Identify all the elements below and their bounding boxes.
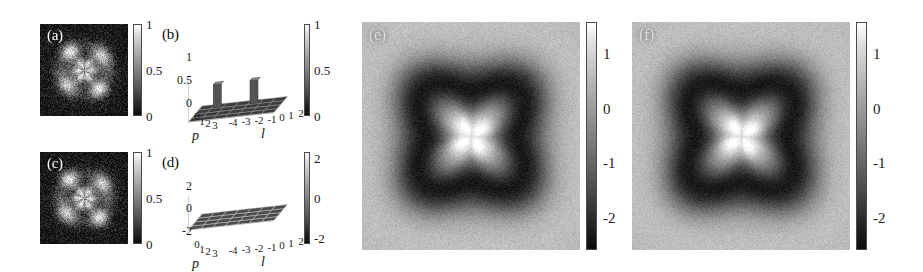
colorbar-tick: 0.5 [314,64,330,77]
panel-b: (b) 1 0.5 0 0 1 2 3 p -4 -3 -2 -1 0 1 2 … [160,18,310,143]
colorbar-gradient [856,22,867,250]
colorbar-gradient [133,24,142,116]
panel-d-ztick: -2 [182,224,192,239]
colorbar-tick: 1 [146,146,153,159]
panel-d-ptick: 1 [199,243,205,255]
colorbar-ticks: 2 0 -2 [310,152,350,244]
panel-b-ptick: 2 [205,117,211,129]
colorbar-gradient [586,22,597,250]
panel-d-ltick: -2 [254,242,263,254]
colorbar-tick: 0 [314,192,321,205]
colorbar-tick: 0 [603,101,611,116]
colorbar-tick: -2 [603,211,616,226]
panel-b-ztick: 0 [186,96,192,111]
panel-d-ptick: 3 [212,247,218,259]
colorbar-tick: 1 [603,46,611,61]
panel-f-image [632,22,850,250]
colorbar-tick: -1 [873,156,886,171]
panel-b-ltick: -1 [267,113,276,125]
colorbar-ticks: 1 0.5 0 [310,24,350,116]
colorbar-tick: 0 [314,110,321,123]
panel-b-ltick: -2 [254,114,263,126]
colorbar-ticks: 1 0 -1 -2 [597,22,637,250]
panel-d-ltick: 2 [298,235,304,247]
panel-e-colorbar: 1 0 -1 -2 [586,22,597,250]
panel-a-colorbar: 1 0.5 0 [133,24,142,116]
panel-c-colorbar: 1 0.5 0 [133,152,142,244]
panel-a-image [40,24,128,116]
colorbar-tick: 0 [146,238,153,251]
panel-d-xlabel: l [261,254,265,270]
panel-b-ltick: 1 [288,109,294,121]
colorbar-ticks: 1 0 -1 -2 [867,22,907,250]
colorbar-gradient [133,152,142,244]
panel-b-ltick: -4 [228,116,237,128]
colorbar-tick: 1 [146,18,153,31]
panel-d-ylabel: p [192,256,199,272]
panel-c-image [40,152,128,244]
panel-d: (d) 2 0 -2 0 1 2 3 p -4 -3 -2 -1 0 1 2 l [160,146,310,271]
colorbar-tick: 1 [873,46,881,61]
colorbar-tick: -1 [603,156,616,171]
panel-d-ztick: 0 [186,201,192,216]
colorbar-tick: 2 [314,151,321,164]
panel-b-ylabel: p [192,128,199,144]
panel-b-ptick: 3 [212,119,218,131]
panel-b-ztick: 0.5 [177,73,192,88]
panel-b-ltick: -3 [241,115,250,127]
panel-f-colorbar: 1 0 -1 -2 [856,22,867,250]
panel-d-ltick: 0 [279,239,285,251]
colorbar-tick: 0 [146,110,153,123]
colorbar-tick: -2 [314,232,325,245]
panel-d-ptick: 2 [205,245,211,257]
panel-d-ltick: 1 [288,237,294,249]
panel-b-ztick: 1 [186,50,192,65]
panel-b-ptick: 1 [199,115,205,127]
panel-d-ltick: -3 [241,243,250,255]
panel-e-image [362,22,580,250]
panel-b-ltick: 2 [298,107,304,119]
panel-b-ltick: 0 [279,111,285,123]
panel-b-xlabel: l [261,126,265,142]
panel-d-colorbar: 2 0 -2 [304,152,310,244]
panel-d-ltick: -1 [267,241,276,253]
panel-d-ztick: 2 [186,179,192,194]
colorbar-tick: 0 [873,101,881,116]
panel-b-colorbar: 1 0.5 0 [304,24,310,116]
colorbar-tick: 1 [314,18,321,31]
figure-canvas: (a) 1 0.5 0 (c) 1 0.5 0 (b) 1 0 [0,0,923,272]
panel-d-ltick: -4 [228,244,237,256]
colorbar-tick: -2 [873,211,886,226]
